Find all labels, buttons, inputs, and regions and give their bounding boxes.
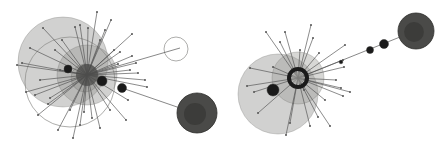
leaf-node — [340, 87, 342, 89]
leaf-node — [335, 79, 337, 81]
dark-node — [367, 47, 374, 54]
dark-node — [118, 84, 127, 93]
network-cluster-figure — [0, 0, 447, 145]
leaf-node — [21, 62, 23, 64]
leaf-node — [312, 37, 314, 39]
leaf-node — [74, 26, 76, 28]
leaf-node — [91, 117, 93, 119]
leaf-node — [129, 69, 131, 71]
leaf-node — [99, 127, 101, 129]
dark-node — [380, 40, 389, 49]
leaf-node — [289, 122, 291, 124]
leaf-node — [329, 125, 331, 127]
leaf-node — [125, 119, 127, 121]
leaf-node — [318, 52, 320, 54]
leaf-node — [324, 99, 326, 101]
far-sphere-core — [404, 22, 424, 42]
leaf-node — [249, 67, 251, 69]
leaf-node — [104, 29, 106, 31]
leaf-node — [343, 66, 345, 68]
leaf-node — [246, 85, 248, 87]
left-cluster-panel — [16, 11, 217, 139]
leaf-node — [131, 33, 133, 35]
leaf-node — [61, 39, 63, 41]
link-edge — [122, 88, 180, 108]
leaf-node — [99, 39, 101, 41]
leaf-node — [109, 109, 111, 111]
leaf-node — [317, 116, 319, 118]
leaf-node — [54, 49, 56, 51]
leaf-node — [349, 91, 351, 93]
leaf-node — [29, 47, 31, 49]
leaf-node — [144, 79, 146, 81]
right-cluster-panel — [238, 13, 434, 136]
leaf-node — [25, 91, 27, 93]
hub-core — [292, 72, 304, 84]
far-sphere-core — [184, 103, 206, 125]
leaf-node — [113, 49, 115, 51]
leaf-node — [42, 27, 44, 29]
leaf-node — [47, 103, 49, 105]
leaf-node — [272, 66, 274, 68]
leaf-node — [119, 51, 121, 53]
leaf-node — [310, 24, 312, 26]
dark-node — [97, 76, 107, 86]
leaf-node — [79, 24, 81, 26]
dark-node — [64, 65, 72, 73]
leaf-node — [16, 64, 18, 66]
leaf-node — [265, 31, 267, 33]
leaf-node — [69, 109, 71, 111]
leaf-node — [285, 134, 287, 136]
leaf-node — [59, 69, 61, 71]
leaf-node — [137, 72, 139, 74]
hub-node — [76, 64, 98, 86]
leaf-node — [117, 63, 119, 65]
dark-node — [339, 60, 343, 64]
leaf-node — [34, 94, 36, 96]
leaf-node — [83, 111, 85, 113]
leaf-node — [49, 97, 51, 99]
leaf-node — [135, 62, 137, 64]
leaf-node — [96, 11, 98, 13]
leaf-node — [57, 129, 59, 131]
leaf-node — [131, 55, 133, 57]
leaf-node — [37, 114, 39, 116]
leaf-node — [309, 125, 311, 127]
leaf-node — [253, 91, 255, 93]
leaf-node — [299, 49, 301, 51]
leaf-node — [344, 44, 346, 46]
leaf-node — [79, 124, 81, 126]
leaf-node — [342, 95, 344, 97]
dark-node — [267, 84, 279, 96]
leaf-node — [110, 19, 112, 21]
leaf-node — [279, 41, 281, 43]
leaf-node — [146, 86, 148, 88]
leaf-node — [257, 112, 259, 114]
leaf-node — [127, 99, 129, 101]
leaf-node — [72, 137, 74, 139]
leaf-node — [39, 79, 41, 81]
leaf-node — [87, 27, 89, 29]
leaf-node — [303, 89, 305, 91]
leaf-node — [284, 31, 286, 33]
